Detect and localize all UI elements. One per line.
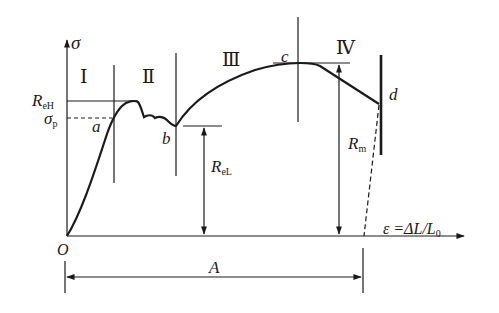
x-axis-label-sub: 0 [436,228,441,239]
rm-label-main: R [348,134,358,153]
rm-label-sub: m [358,143,366,154]
rel-label: ReL [211,158,232,177]
rm-label: Rm [348,135,366,154]
sigma-p-label-sub: p [52,118,57,129]
rel-label-main: R [211,157,221,176]
unloading-line [364,105,379,236]
region-label-2: Ⅱ [142,67,155,86]
region-label-3: Ⅲ [222,50,240,69]
region-label-4: Ⅳ [336,38,355,57]
sigma-p-label: σp [44,110,57,129]
x-axis-label: ε =ΔL/L0 [383,221,441,239]
region-label-1: Ⅰ [80,67,88,86]
elongation-label: A [209,259,219,276]
point-d-label: d [389,86,398,103]
point-c-label: c [281,48,289,65]
x-axis-label-main: ε =ΔL/L [383,220,436,237]
rel-label-sub: eL [221,166,232,177]
stress-strain-diagram: σ ε =ΔL/L0 O Ⅰ Ⅱ Ⅲ Ⅳ a b c d ReH σp ReL … [0,0,499,313]
point-a-label: a [92,118,101,135]
y-axis-label: σ [71,33,80,52]
reh-label-main: R [32,91,42,110]
point-b-label: b [162,130,171,147]
origin-label: O [57,242,69,258]
